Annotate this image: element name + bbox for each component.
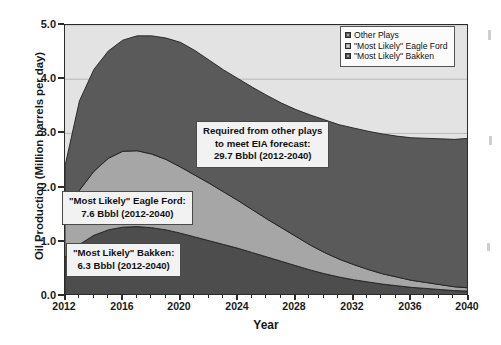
annotation-other-line-3: 29.7 Bbbl (2012-2040) (203, 150, 322, 163)
legend-swatch-bakken-icon (345, 53, 351, 59)
y-tick-label-3: 3.0 (12, 126, 56, 138)
chart-legend: Other Plays "Most Likely" Eagle Ford "Mo… (340, 26, 455, 67)
legend-swatch-eagle-ford-icon (345, 43, 351, 49)
annotation-other-line-1: Required from other plays (203, 125, 322, 138)
x-tick-label-2032: 2032 (329, 300, 375, 312)
x-tick-minor (366, 295, 367, 298)
legend-item-eagle-ford: "Most Likely" Eagle Ford (345, 41, 448, 52)
x-tick-minor (380, 295, 381, 298)
legend-swatch-other-plays-icon (345, 32, 351, 38)
y-tick-label-1: 1.0 (12, 235, 56, 247)
annotation-bakken: "Most Likely" Bakken: 6.3 Bbbl (2012-204… (66, 243, 181, 277)
annotation-bakken-line-1: "Most Likely" Bakken: (73, 247, 174, 260)
y-axis-title: Oil Production (Million barrels per day) (33, 21, 45, 291)
x-tick-minor (78, 295, 79, 298)
legend-label-other-plays: Other Plays (354, 30, 399, 41)
legend-label-bakken: "Most Likely" Bakken (354, 51, 434, 62)
x-tick-minor (208, 295, 209, 298)
scan-speck (487, 243, 490, 251)
x-tick-minor (395, 295, 396, 298)
y-tick-label-2: 2.0 (12, 181, 56, 193)
x-tick-label-2024: 2024 (214, 300, 260, 312)
x-tick-label-2040: 2040 (444, 300, 490, 312)
x-tick-label-2012: 2012 (41, 300, 87, 312)
y-tick-label-4: 4.0 (12, 72, 56, 84)
annotation-bakken-line-2: 6.3 Bbbl (2012-2040) (73, 260, 174, 273)
x-tick-minor (452, 295, 453, 298)
x-axis-title: Year (64, 318, 468, 332)
x-tick-label-2020: 2020 (156, 300, 202, 312)
x-tick-minor (280, 295, 281, 298)
x-tick-minor (165, 295, 166, 298)
x-tick-minor (337, 295, 338, 298)
x-tick-minor (251, 295, 252, 298)
x-tick-label-2036: 2036 (387, 300, 433, 312)
x-tick-minor (93, 295, 94, 298)
x-tick-minor (308, 295, 309, 298)
annotation-eagle-ford: "Most Likely" Eagle Ford: 7.6 Bbbl (2012… (62, 191, 193, 225)
x-tick-minor (150, 295, 151, 298)
x-tick-minor (136, 295, 137, 298)
chart-figure: Oil Production (Million barrels per day)… (0, 0, 501, 345)
x-tick-minor (323, 295, 324, 298)
annotation-eagle-ford-line-1: "Most Likely" Eagle Ford: (69, 195, 186, 208)
legend-label-eagle-ford: "Most Likely" Eagle Ford (354, 41, 448, 52)
x-tick-minor (107, 295, 108, 298)
y-tick-label-5: 5.0 (12, 18, 56, 30)
scan-speck (489, 136, 492, 145)
x-tick-minor (265, 295, 266, 298)
annotation-other-plays: Required from other plays to meet EIA fo… (196, 121, 329, 168)
legend-item-other-plays: Other Plays (345, 30, 448, 41)
x-tick-minor (423, 295, 424, 298)
annotation-eagle-ford-line-2: 7.6 Bbbl (2012-2040) (69, 208, 186, 221)
x-tick-label-2028: 2028 (271, 300, 317, 312)
x-tick-minor (438, 295, 439, 298)
annotation-other-line-2: to meet EIA forecast: (203, 138, 322, 151)
x-tick-minor (193, 295, 194, 298)
x-tick-label-2016: 2016 (99, 300, 145, 312)
scan-speck (488, 30, 491, 40)
legend-item-bakken: "Most Likely" Bakken (345, 51, 448, 62)
x-tick-minor (222, 295, 223, 298)
